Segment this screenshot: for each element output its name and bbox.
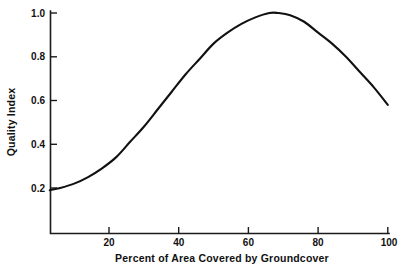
quality-index-curve bbox=[50, 13, 388, 191]
y-tick-label-0-4: 0.4 bbox=[31, 139, 45, 150]
x-tick-label-40: 40 bbox=[173, 237, 185, 248]
chart-canvas: 1.0 0.8 0.6 0.4 0.2 20 40 60 80 100 Perc… bbox=[0, 0, 405, 267]
y-tick-label-0-8: 0.8 bbox=[31, 51, 45, 62]
x-tick-label-100: 100 bbox=[381, 237, 398, 248]
x-tick-label-80: 80 bbox=[313, 237, 325, 248]
y-axis-ticks bbox=[51, 13, 58, 188]
chart-figure: 1.0 0.8 0.6 0.4 0.2 20 40 60 80 100 Perc… bbox=[0, 0, 405, 267]
y-tick-label-0-2: 0.2 bbox=[31, 183, 45, 194]
y-tick-label-1-0: 1.0 bbox=[31, 8, 45, 19]
x-axis-title: Percent of Area Covered by Groundcover bbox=[115, 252, 329, 264]
y-axis-title: Quality Index bbox=[5, 88, 17, 157]
axis-spines bbox=[51, 11, 390, 234]
x-tick-label-20: 20 bbox=[103, 237, 115, 248]
y-tick-label-0-6: 0.6 bbox=[31, 95, 45, 106]
x-tick-label-60: 60 bbox=[243, 237, 255, 248]
x-axis-tick-labels: 20 40 60 80 100 bbox=[103, 237, 397, 248]
y-axis-tick-labels: 1.0 0.8 0.6 0.4 0.2 bbox=[31, 8, 45, 194]
x-axis-ticks bbox=[109, 227, 388, 234]
